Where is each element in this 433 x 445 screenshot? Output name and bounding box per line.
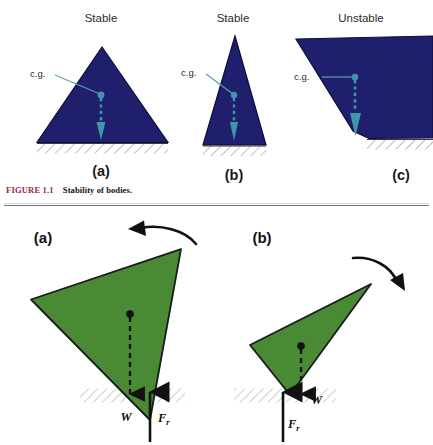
weight-label-a: W [120, 410, 132, 424]
figure-caption: FIGURE 1.1 Stability of bodies. [6, 183, 427, 197]
figure-caption-text: Stability of bodies. [63, 185, 132, 195]
panel-a-bottom: (a) W Fr [31, 221, 196, 443]
reaction-label-a: Fr [157, 411, 170, 427]
ground-hatch-c [367, 140, 433, 150]
figure-number: FIGURE 1.1 [6, 185, 54, 195]
weight-label-b: W [311, 393, 323, 407]
panel-b-top: Stable c.g. (b) [181, 12, 266, 183]
body-shape-c [296, 36, 433, 139]
figure-1-1-graphic: Stable c.g. (a) Stable [0, 0, 433, 190]
panel-label-a-bottom: (a) [34, 229, 52, 246]
body-shape-bottom-b [250, 284, 371, 395]
panel-label-b-top: (b) [225, 167, 244, 183]
cg-point-bottom-a [126, 310, 134, 318]
state-label-b: Stable [217, 12, 250, 24]
panel-a-top: Stable c.g. (a) [30, 12, 168, 179]
caption-rule-light [4, 203, 429, 204]
state-label-c: Unstable [338, 12, 383, 24]
reaction-label-b: Fr [287, 417, 300, 433]
cg-label-a: c.g. [30, 68, 45, 79]
panel-label-a-top: (a) [92, 163, 110, 179]
rotation-arc-a [141, 227, 196, 244]
ground-hatch-a [37, 144, 168, 154]
caption-rule [4, 205, 429, 206]
rotation-arrowhead-b [390, 273, 405, 291]
ground-hatch-b [203, 146, 266, 156]
panel-c-top: Unstable c.g. (c) [294, 12, 433, 183]
panel-b-bottom: (b) W Fr [234, 229, 405, 442]
rotation-arc-b [353, 258, 397, 282]
figure-page: Stable c.g. (a) Stable [0, 0, 433, 445]
cg-point-a [98, 92, 105, 99]
cg-point-b [231, 92, 237, 98]
cg-point-bottom-b [297, 342, 305, 350]
cg-label-c: c.g. [294, 71, 309, 82]
panel-label-b-bottom: (b) [252, 229, 271, 246]
cg-point-c [352, 74, 359, 81]
cg-label-b: c.g. [181, 67, 196, 78]
panel-label-c-top: (c) [392, 167, 410, 183]
state-label-a: Stable [85, 12, 118, 24]
figure-bottom-graphic: (a) W Fr (b) [0, 210, 433, 445]
rotation-arrowhead-a [128, 221, 146, 237]
